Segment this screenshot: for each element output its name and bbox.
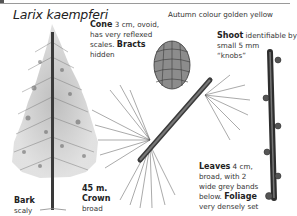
leaves-annotation: Leaves 4 cm, broad, with 2 wide grey ban… [199,162,297,212]
bark-annotation: Bark scaly [14,196,35,216]
leaves-label: Leaves [199,162,230,171]
shoot-label: Shoot [217,31,243,40]
bark-label: Bark [14,196,35,205]
cone-label: Cone [90,20,113,29]
cone-annotation: Cone 3 cm, ovoid, has very reflexed scal… [90,20,210,60]
foliage-label: Foliage [224,192,257,201]
shoot-annotation: Shoot identifiable by small 5 mm “knobs” [217,31,297,61]
crown-annotation: 45 m. Crown broad [82,184,110,214]
crown-label: Crown [82,194,110,203]
autumn-note: Autumn colour golden yellow [168,10,273,20]
bracts-label: Bracts [117,40,146,49]
header-rule [0,3,290,4]
height-label: 45 m. [82,184,107,193]
